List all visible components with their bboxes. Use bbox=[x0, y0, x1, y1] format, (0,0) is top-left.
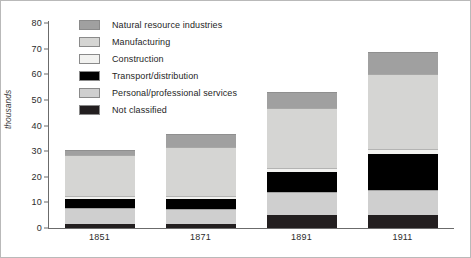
bar-segment bbox=[65, 199, 135, 208]
bar-segment bbox=[267, 108, 337, 168]
stacked-bar-1891 bbox=[267, 92, 337, 228]
chart-legend: Natural resource industriesManufacturing… bbox=[79, 16, 237, 118]
y-tick-mark bbox=[44, 151, 48, 152]
bar-segment bbox=[267, 172, 337, 193]
legend-swatch-icon bbox=[79, 37, 100, 47]
y-tick-mark bbox=[44, 99, 48, 100]
bar-segment bbox=[267, 215, 337, 228]
bar-segment bbox=[65, 155, 135, 196]
y-tick-mark bbox=[44, 228, 48, 229]
bar-segment bbox=[368, 215, 438, 228]
legend-label: Construction bbox=[112, 54, 164, 64]
legend-item[interactable]: Personal/professional services bbox=[79, 84, 237, 101]
x-tick-label: 1911 bbox=[392, 232, 412, 242]
bar-segment bbox=[368, 52, 438, 74]
legend-label: Transport/distribution bbox=[112, 71, 198, 81]
bar-segment bbox=[368, 190, 438, 216]
stacked-bar-1911 bbox=[368, 52, 438, 228]
legend-swatch-icon bbox=[79, 71, 100, 81]
bar-segment bbox=[166, 147, 236, 196]
y-tick-mark bbox=[44, 48, 48, 49]
y-tick-mark bbox=[44, 23, 48, 24]
bar-segment bbox=[368, 74, 438, 148]
x-tick-label: 1891 bbox=[291, 232, 312, 242]
y-tick-mark bbox=[44, 74, 48, 75]
bar-segment bbox=[166, 199, 236, 209]
bar-segment bbox=[368, 154, 438, 190]
y-tick-mark bbox=[44, 125, 48, 126]
legend-swatch-icon bbox=[79, 105, 100, 115]
legend-item[interactable]: Construction bbox=[79, 50, 237, 67]
bar-segment bbox=[166, 209, 236, 224]
legend-item[interactable]: Not classified bbox=[79, 101, 237, 118]
bar-segment bbox=[166, 134, 236, 147]
legend-item[interactable]: Transport/distribution bbox=[79, 67, 237, 84]
bar-segment bbox=[65, 208, 135, 225]
bar-segment bbox=[267, 192, 337, 215]
y-tick-mark bbox=[44, 176, 48, 177]
legend-swatch-icon bbox=[79, 54, 100, 64]
x-axis-line bbox=[48, 228, 454, 229]
legend-item[interactable]: Natural resource industries bbox=[79, 16, 237, 33]
legend-label: Natural resource industries bbox=[112, 20, 222, 30]
stacked-bar-1851 bbox=[65, 150, 135, 228]
bar-segment bbox=[166, 224, 236, 228]
legend-swatch-icon bbox=[79, 20, 100, 30]
chart-figure: thousands 01020304050607080 185118711891… bbox=[0, 0, 471, 258]
legend-label: Not classified bbox=[112, 105, 167, 115]
x-tick-label: 1851 bbox=[89, 232, 110, 242]
x-tick-label: 1871 bbox=[190, 232, 211, 242]
legend-item[interactable]: Manufacturing bbox=[79, 33, 237, 50]
stacked-bar-1871 bbox=[166, 134, 236, 228]
legend-swatch-icon bbox=[79, 88, 100, 98]
bar-segment bbox=[267, 92, 337, 107]
legend-label: Personal/professional services bbox=[112, 88, 237, 98]
bar-segment bbox=[65, 224, 135, 228]
y-tick-mark bbox=[44, 202, 48, 203]
y-axis-title: thousands bbox=[3, 90, 13, 129]
legend-label: Manufacturing bbox=[112, 37, 170, 47]
